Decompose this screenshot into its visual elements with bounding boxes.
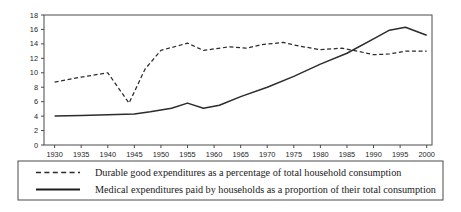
y-tick-label: 18 <box>30 11 38 20</box>
x-tick-label: 1990 <box>365 150 381 159</box>
y-tick-label: 16 <box>30 25 38 34</box>
y-tick-label: 4 <box>34 112 38 121</box>
x-tick-label: 1960 <box>206 150 222 159</box>
x-tick-label: 1930 <box>46 150 62 159</box>
x-axis-ticks: 1930193519401945195019551960196519701975… <box>46 145 435 159</box>
legend-label-durable-goods: Durable good expenditures as a percentag… <box>95 167 401 178</box>
y-tick-label: 12 <box>30 54 38 63</box>
x-tick-label: 1995 <box>392 150 408 159</box>
x-tick-label: 1985 <box>339 150 355 159</box>
x-tick-label: 1945 <box>126 150 142 159</box>
y-tick-label: 14 <box>30 39 38 48</box>
x-tick-label: 1940 <box>100 150 116 159</box>
series-line-durable-goods <box>55 42 427 103</box>
y-tick-label: 10 <box>30 68 38 77</box>
y-tick-label: 6 <box>34 97 38 106</box>
x-tick-label: 2000 <box>418 150 434 159</box>
line-chart-svg: 024681012141618 193019351940194519501955… <box>0 0 461 212</box>
plot-area-border <box>44 15 432 145</box>
x-tick-label: 1950 <box>153 150 169 159</box>
x-tick-label: 1980 <box>312 150 328 159</box>
data-series-group <box>55 27 427 116</box>
y-axis-ticks: 024681012141618 <box>30 11 44 150</box>
y-tick-label: 8 <box>34 83 38 92</box>
chart-figure: 024681012141618 193019351940194519501955… <box>0 0 461 212</box>
y-tick-label: 0 <box>34 141 38 150</box>
x-tick-label: 1965 <box>232 150 248 159</box>
x-tick-label: 1955 <box>179 150 195 159</box>
legend-entry-medical: Medical expenditures paid by households … <box>36 184 436 195</box>
x-tick-label: 1935 <box>73 150 89 159</box>
legend: Durable good expenditures as a percentag… <box>18 161 443 200</box>
legend-label-medical: Medical expenditures paid by households … <box>95 184 436 195</box>
x-tick-label: 1975 <box>286 150 302 159</box>
x-tick-label: 1970 <box>259 150 275 159</box>
plot-frame-group <box>44 15 432 145</box>
y-tick-label: 2 <box>34 126 38 135</box>
series-line-medical <box>55 27 427 116</box>
